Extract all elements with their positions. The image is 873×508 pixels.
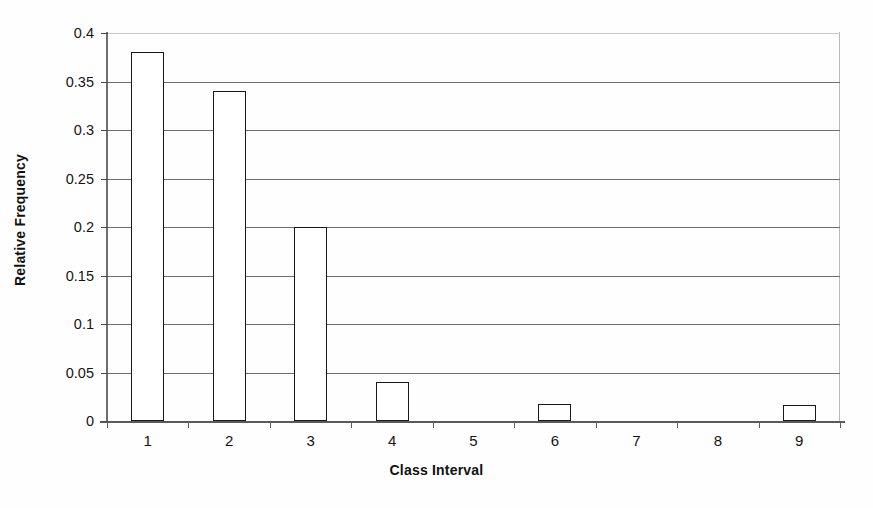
y-tick-label: 0.25: [66, 171, 94, 187]
y-tick-label: 0.3: [74, 122, 94, 138]
x-tick-label: 5: [469, 432, 477, 449]
y-tick-label: 0.05: [66, 365, 94, 381]
x-tick-mark: [107, 421, 108, 428]
y-tick-mark: [101, 130, 108, 131]
x-tick-mark: [433, 421, 434, 428]
bar: [131, 52, 164, 421]
y-tick-mark: [101, 82, 108, 83]
x-tick-mark: [514, 421, 515, 428]
bar: [213, 91, 246, 421]
x-tick-label: 6: [551, 432, 559, 449]
y-axis-title-label: Relative Frequency: [12, 154, 28, 286]
y-tick-label: 0.15: [66, 268, 94, 284]
relative-frequency-bar-chart: Relative Frequency 00.050.10.150.20.250.…: [0, 0, 873, 508]
x-tick-mark: [270, 421, 271, 428]
y-tick-mark: [101, 33, 108, 34]
x-axis-tick-marks: [107, 421, 840, 429]
x-axis-tick-labels: 123456789: [107, 432, 840, 458]
x-tick-label: 7: [632, 432, 640, 449]
bar: [376, 382, 409, 421]
x-tick-label: 4: [388, 432, 396, 449]
bar-series: [107, 33, 840, 421]
y-tick-mark: [101, 276, 108, 277]
y-tick-label: 0: [86, 413, 94, 429]
y-tick-label: 0.35: [66, 74, 94, 90]
y-tick-mark: [101, 179, 108, 180]
x-tick-label: 8: [714, 432, 722, 449]
x-tick-mark: [351, 421, 352, 428]
x-tick-label: 3: [306, 432, 314, 449]
bar: [783, 405, 816, 421]
x-tick-label: 1: [144, 432, 152, 449]
bar: [538, 404, 571, 421]
y-tick-label: 0.2: [74, 219, 94, 235]
y-tick-mark: [101, 324, 108, 325]
y-axis-tick-labels: 00.050.10.150.20.250.30.350.4: [40, 0, 102, 440]
x-axis-title: Class Interval: [0, 462, 873, 478]
y-tick-mark: [101, 373, 108, 374]
y-tick-mark: [101, 227, 108, 228]
y-tick-label: 0.4: [74, 25, 94, 41]
y-tick-mark: [101, 421, 108, 422]
x-tick-label: 9: [795, 432, 803, 449]
x-tick-mark: [188, 421, 189, 428]
bar: [294, 227, 327, 421]
x-tick-mark: [759, 421, 760, 428]
x-tick-label: 2: [225, 432, 233, 449]
x-tick-mark: [840, 421, 841, 428]
x-tick-mark: [677, 421, 678, 428]
x-tick-mark: [596, 421, 597, 428]
y-axis-title: Relative Frequency: [0, 0, 40, 440]
y-tick-label: 0.1: [74, 316, 94, 332]
